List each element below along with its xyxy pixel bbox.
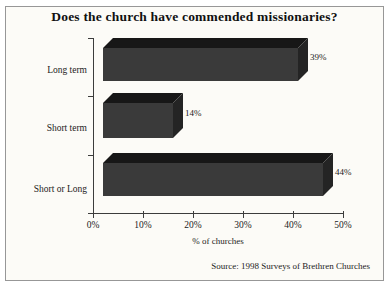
x-axis-tick [343, 211, 344, 218]
y-axis-tick [88, 155, 93, 156]
value-label: 39% [310, 52, 327, 62]
source-note: Source: 1998 Surveys of Brethren Churche… [100, 261, 370, 271]
bar-front-face [103, 163, 323, 196]
bar-top-face [103, 153, 333, 163]
bar-side-face [173, 93, 183, 138]
category-label-long-term: Long term [0, 63, 87, 77]
bar-long-term [103, 48, 298, 81]
x-axis-tick [193, 211, 194, 218]
x-tick-label: 30% [223, 220, 263, 230]
x-axis-tick [93, 211, 94, 218]
bar-short-or-long [103, 163, 323, 196]
x-tick-label: 20% [173, 220, 213, 230]
bar-short-term [103, 103, 173, 138]
x-axis-tick [143, 211, 144, 218]
plot-area: 0%10%20%30%40%50%39%14%44% [93, 38, 343, 213]
category-label-short-term: Short term [0, 121, 87, 135]
y-axis-tick [88, 96, 93, 97]
bar-front-face [103, 103, 173, 138]
value-label: 44% [335, 167, 352, 177]
x-tick-label: 0% [73, 220, 113, 230]
x-tick-label: 10% [123, 220, 163, 230]
y-axis-line [93, 38, 94, 214]
x-tick-label: 40% [273, 220, 313, 230]
category-label-short-or-long: Short or Long [0, 182, 87, 196]
x-axis-tick [243, 211, 244, 218]
chart-image: Does the church have commended missionar… [0, 0, 389, 289]
bar-front-face [103, 48, 298, 81]
x-axis-tick [293, 211, 294, 218]
y-axis-tick [88, 38, 93, 39]
x-axis-line [93, 213, 344, 214]
x-tick-label: 50% [323, 220, 363, 230]
x-axis-title: % of churches [93, 236, 343, 246]
chart-title: Does the church have commended missionar… [6, 9, 383, 25]
bar-top-face [103, 93, 183, 103]
bar-top-face [103, 38, 308, 48]
value-label: 14% [185, 108, 202, 118]
